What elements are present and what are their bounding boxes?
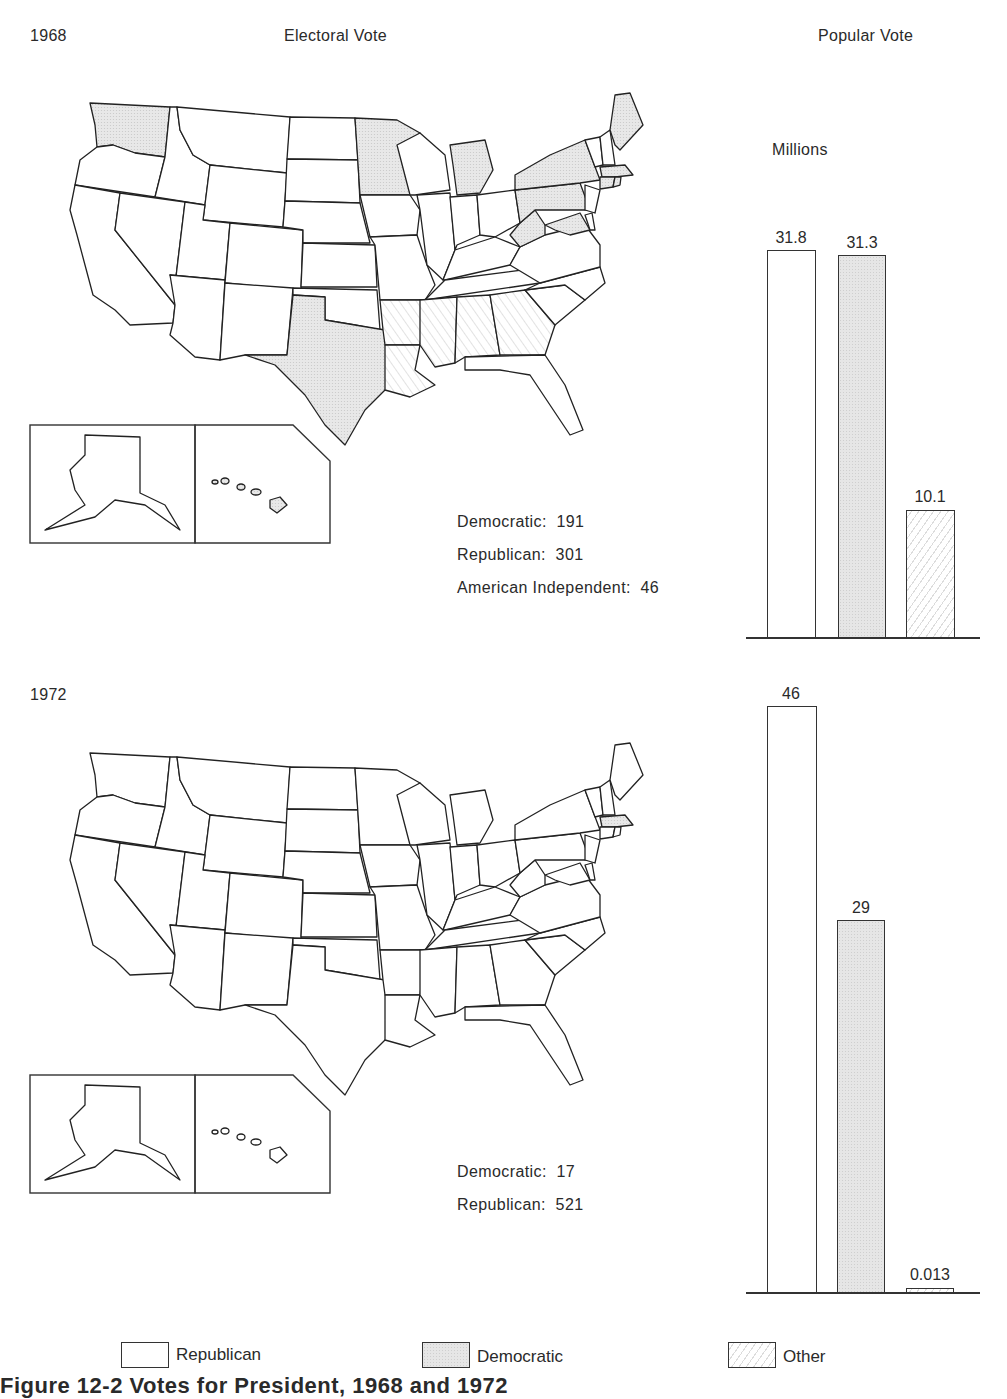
ev-1972-rep-value: 521 [556,1196,584,1213]
ev-1968-dem-value: 191 [556,513,584,530]
map-1968 [25,85,665,545]
state-in [450,195,480,250]
state-ms [420,297,457,367]
state-ma-1972 [600,815,633,827]
bar-1972-dem-value: 29 [831,899,891,917]
x-axis-1968 [746,637,980,639]
bar-1968-oth-value: 10.1 [900,488,960,506]
year-1968-label: 1968 [30,27,67,45]
popular-vote-title: Popular Vote [818,27,913,45]
x-axis-1972 [746,1292,980,1294]
bar-1968-rep-value: 31.8 [761,229,821,247]
state-nj [585,185,600,213]
ev-1972-rep-label: Republican: [457,1196,546,1213]
units-label: Millions [772,141,828,159]
bar-1972-rep-value: 46 [761,685,821,703]
state-az [170,275,225,360]
state-md [545,213,590,235]
alaska-inset [30,425,195,543]
legend-swatch-other [728,1342,776,1368]
bar-1968-democratic [838,255,886,639]
bar-1972-oth-value: 0.013 [900,1266,960,1284]
state-me [610,93,643,150]
year-1972-label: 1972 [30,686,67,704]
ev-1968-ai-label: American Independent: [457,579,631,596]
ev-1968-ai-value: 46 [641,579,660,596]
ev-1972-dem-value: 17 [556,1163,575,1180]
legend-label-other: Other [783,1347,826,1367]
bar-1968-dem-value: 31.3 [832,234,892,252]
ev-1968-rep-label: Republican: [457,546,546,563]
legend-swatch-republican [121,1342,169,1368]
bar-1968-republican [767,250,816,639]
state-co [225,223,303,290]
hawaii-inset-1972 [195,1075,330,1193]
bar-1972-democratic [837,920,885,1293]
legend-label-democratic: Democratic [477,1347,563,1367]
bar-1968-other [906,510,955,639]
state-nd [287,117,358,160]
electoral-vote-title: Electoral Vote [284,27,387,45]
state-ks [301,243,377,287]
state-mi [450,140,493,195]
hawaii-inset [195,425,330,543]
map-1972 [25,735,665,1195]
figure-caption: Figure 12-2 Votes for President, 1968 an… [0,1373,508,1399]
ev-1968-dem-label: Democratic: [457,513,547,530]
state-ia [360,195,420,237]
state-fl [465,355,583,435]
legend-label-republican: Republican [176,1345,261,1365]
ev-1968-rep-value: 301 [556,546,584,563]
bar-1972-republican [767,706,817,1293]
legend-swatch-democratic [422,1342,470,1368]
state-nm [220,283,293,360]
state-ri [613,177,621,187]
alaska-inset-1972 [30,1075,195,1193]
state-ar [380,300,425,345]
state-sd [285,159,360,203]
state-ma [600,165,633,177]
ev-1972-dem-label: Democratic: [457,1163,547,1180]
state-wy [203,165,287,227]
